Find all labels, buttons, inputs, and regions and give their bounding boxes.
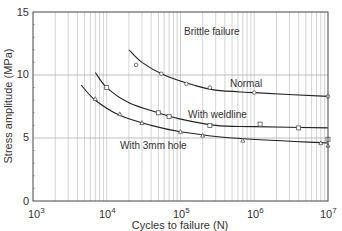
square-marker: [297, 126, 301, 130]
square-marker: [208, 123, 212, 127]
circle-marker: [134, 63, 138, 67]
square-marker: [167, 115, 171, 119]
curves: [81, 50, 328, 143]
y-axis-label: Stress amplitude (MPa): [2, 49, 14, 164]
circle-marker: [185, 82, 189, 86]
x-tick-1e5: 105: [173, 206, 190, 220]
y-tick-15: 15: [17, 6, 29, 18]
triangle-marker: [201, 133, 205, 137]
x-tick-1e7: 107: [320, 206, 337, 220]
circle-marker: [160, 72, 164, 76]
brittle-failure-label: Brittle failure: [184, 26, 240, 37]
y-tick-10: 10: [17, 68, 29, 80]
hole-label: With 3mm hole: [120, 140, 187, 151]
x-tick-1e3: 103: [28, 206, 45, 220]
triangle-marker: [118, 112, 122, 116]
x-axis-label: Cycles to failure (N): [132, 219, 229, 231]
square-marker: [156, 111, 160, 115]
circle-marker: [252, 91, 256, 95]
sn-fatigue-chart: 15 10 5 0 103 104 105 106 107 Cycles to …: [0, 0, 342, 231]
square-marker: [258, 122, 262, 126]
y-tick-5: 5: [23, 131, 29, 143]
weldline-label: With weldline: [188, 109, 247, 120]
square-marker: [105, 86, 109, 90]
x-tick-1e6: 106: [247, 206, 264, 220]
y-tick-0: 0: [23, 195, 29, 207]
curve-normal: [129, 50, 328, 97]
x-tick-1e4: 104: [99, 206, 116, 220]
triangle-marker: [319, 141, 323, 145]
normal-label: Normal: [230, 78, 262, 89]
triangle-marker: [140, 121, 144, 125]
circle-marker: [208, 86, 212, 90]
triangle-marker: [93, 97, 97, 101]
grid-lines: [33, 12, 328, 201]
triangle-marker: [179, 130, 183, 134]
